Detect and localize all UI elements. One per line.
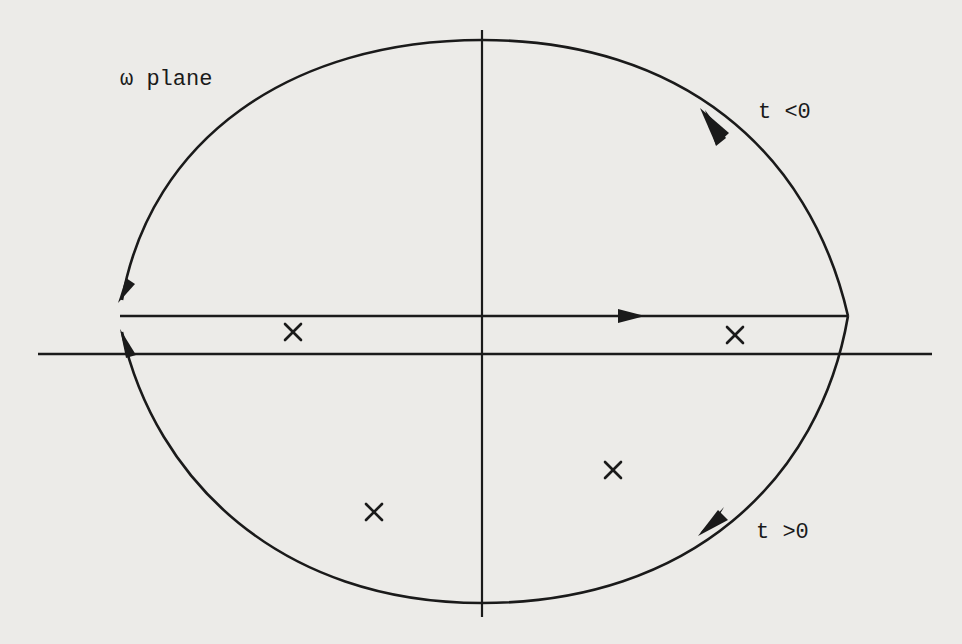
pole-3-icon xyxy=(605,462,621,478)
arrow-upper-right-head-icon xyxy=(700,108,729,145)
pole-2-icon xyxy=(727,327,743,343)
arrow-right-icon xyxy=(618,309,645,323)
upper-arc-label: t <0 xyxy=(758,100,811,125)
pole-4-icon xyxy=(366,504,382,520)
lower-arc-label: t >0 xyxy=(756,520,809,545)
omega-plane-contour-diagram: ω plane t <0 t >0 xyxy=(0,0,962,644)
arrow-left-down-icon xyxy=(118,278,135,303)
arrow-lower-right-head-icon xyxy=(698,510,728,536)
contour-lower-arc xyxy=(122,316,848,603)
diagram-canvas xyxy=(0,0,962,644)
plane-label: ω plane xyxy=(120,67,212,92)
pole-1-icon xyxy=(285,324,301,340)
contour-upper-arc xyxy=(122,40,848,316)
